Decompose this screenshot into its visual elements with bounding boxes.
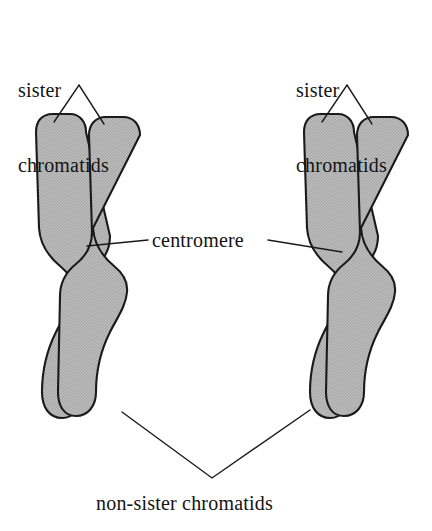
chromosome-diagram: sister chromatids sister chromatids cent… [0, 0, 432, 531]
leader-non-sister [122, 410, 310, 478]
label-sister-left-line2: chromatids [18, 153, 109, 178]
label-sister-right-line1: sister [296, 78, 387, 103]
label-sister-chromatids-right: sister chromatids [296, 28, 387, 228]
label-sister-left-line1: sister [18, 78, 109, 103]
label-sister-chromatids-left: sister chromatids [18, 28, 109, 228]
label-centromere: centromere [152, 228, 244, 253]
label-non-sister-chromatids: non-sister chromatids [96, 491, 273, 516]
label-sister-right-line2: chromatids [296, 153, 387, 178]
